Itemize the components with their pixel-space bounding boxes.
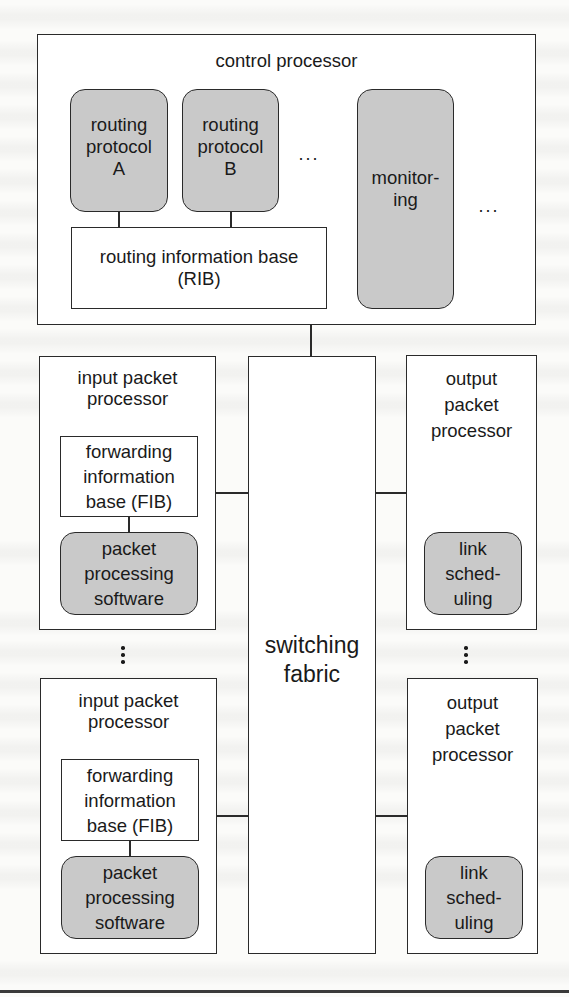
connector-protocol-a-rib: [118, 211, 120, 228]
routing-protocol-a-label: routing protocol A: [86, 114, 152, 180]
input-packet-processor-1-title: input packet processor: [39, 367, 216, 409]
connector-protocol-b-rib: [230, 211, 232, 228]
link-scheduling-label-1: link sched- uling: [445, 536, 501, 611]
connector-control-fabric: [310, 324, 312, 357]
routing-protocol-a-box: routing protocol A: [70, 89, 168, 212]
switching-fabric-box: switching fabric: [248, 356, 376, 954]
connector-input-2-fabric: [216, 815, 249, 817]
routing-protocol-b-label: routing protocol B: [198, 114, 264, 180]
monitoring-label: monitor- ing: [372, 167, 440, 211]
connector-fabric-output-2: [375, 815, 408, 817]
connector-input-1-fabric: [215, 492, 249, 494]
link-scheduling-label-2: link sched- uling: [446, 860, 502, 935]
fib-box-2: forwarding information base (FIB): [61, 759, 199, 841]
more-protocols-ellipsis: ···: [298, 148, 319, 169]
packet-processing-software-label-1: packet processing software: [84, 536, 173, 611]
output-processors-vertical-ellipsis: [464, 646, 468, 667]
link-scheduling-2: link sched- uling: [425, 856, 523, 939]
connector-fib-software-2: [129, 840, 131, 857]
output-packet-processor-2-title: output packet processor: [407, 690, 538, 768]
control-processor-title: control processor: [37, 50, 536, 71]
page-bottom-rule: [0, 990, 569, 993]
more-modules-ellipsis: ···: [478, 200, 499, 221]
fib-label-1: forwarding information base (FIB): [83, 439, 175, 514]
packet-processing-software-label-2: packet processing software: [85, 860, 174, 935]
rib-box: routing information base (RIB): [71, 227, 327, 309]
input-processors-vertical-ellipsis: [121, 646, 125, 667]
routing-protocol-b-box: routing protocol B: [182, 89, 279, 212]
page-bleedthrough: [0, 960, 569, 986]
fib-box-1: forwarding information base (FIB): [60, 436, 198, 517]
output-packet-processor-1-title: output packet processor: [406, 366, 537, 444]
page-bleedthrough: [0, 328, 569, 354]
page-bleedthrough: [0, 4, 569, 30]
rib-label: routing information base (RIB): [100, 246, 298, 290]
packet-processing-software-2: packet processing software: [61, 856, 199, 939]
fib-label-2: forwarding information base (FIB): [84, 763, 176, 838]
link-scheduling-1: link sched- uling: [424, 532, 522, 615]
connector-fib-software-1: [128, 516, 130, 533]
switching-fabric-label: switching fabric: [265, 631, 360, 689]
input-packet-processor-2-title: input packet processor: [40, 690, 217, 732]
monitoring-box: monitor- ing: [357, 89, 454, 309]
packet-processing-software-1: packet processing software: [60, 532, 198, 615]
connector-fabric-output-1: [375, 492, 407, 494]
